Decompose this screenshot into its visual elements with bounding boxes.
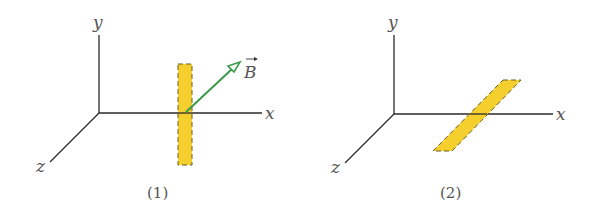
conducting-strip-vertical [178, 64, 192, 165]
x-axis-label: x [265, 103, 275, 123]
magnetic-field-vector [186, 62, 240, 112]
z-axis-label: z [35, 156, 46, 176]
x-axis-label: x [556, 104, 566, 124]
diagram: y x z B (1) y x z (2) [0, 0, 595, 218]
z-axis [50, 113, 99, 162]
figure-1: y x z B (1) [35, 12, 275, 202]
z-axis [345, 114, 394, 163]
figure-2-caption: (2) [440, 184, 461, 202]
conducting-strip-horizontal [433, 80, 521, 151]
figure-1-caption: (1) [147, 184, 168, 202]
figure-2: y x z (2) [330, 12, 566, 202]
vector-label-B: B [243, 62, 257, 82]
vector-arrow-over-B-icon [246, 57, 258, 61]
y-axis-label: y [387, 12, 398, 32]
y-axis-label: y [92, 12, 103, 32]
z-axis-label: z [330, 157, 341, 177]
